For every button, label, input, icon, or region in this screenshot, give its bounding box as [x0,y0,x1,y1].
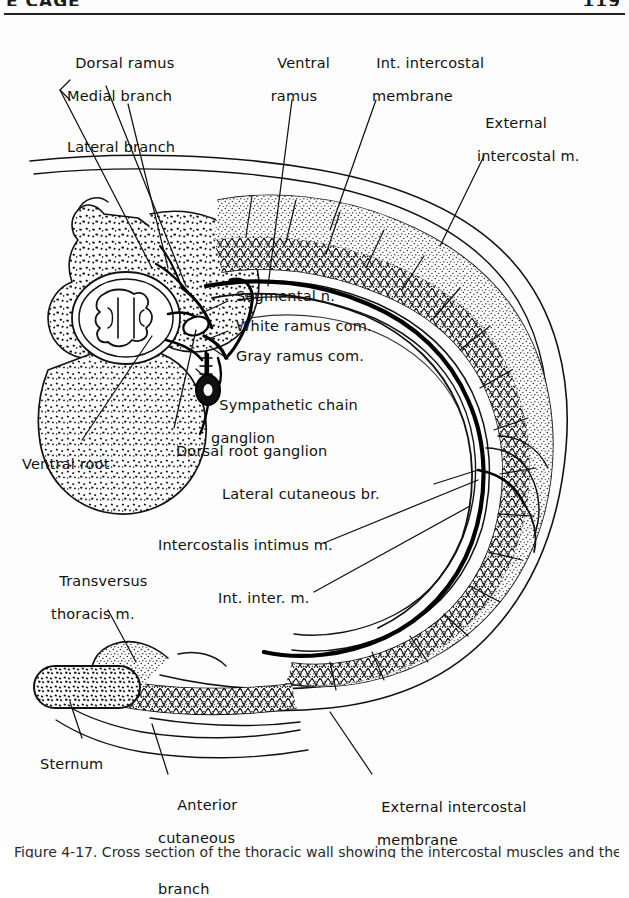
running-head-left: E CAGE [6,0,81,6]
label-sympathetic-chain-ganglion: Sympathetic chain ganglion [200,380,358,481]
label-segmental-nerve: Segmental n. [236,288,335,305]
label-white-ramus-communicans: White ramus com. [236,318,372,335]
label-transversus-thoracis-muscle: Transversus thoracis m. [40,556,148,657]
label-ventral-root: Ventral root [22,456,110,473]
label-anterior-cutaneous-branch: Anterior cutaneous branch [158,780,237,898]
label-external-intercostal-membrane: External intercostal membrane [362,782,526,883]
label-internal-intercostal-muscle: Int. inter. m. [218,590,310,607]
label-sternum: Sternum [40,756,103,773]
label-external-intercostal-muscle: External intercostal m. [466,98,580,199]
label-dorsal-ramus: Dorsal ramus Medial branch Lateral branc… [56,38,175,189]
label-gray-ramus-communicans: Gray ramus com. [236,348,364,365]
running-head-right: 119 [583,0,622,6]
label-ventral-ramus: Ventral ramus [250,38,338,139]
label-dorsal-root-ganglion: Dorsal root ganglion [176,443,327,460]
figure-caption: Figure 4-17. Cross section of the thorac… [14,844,619,858]
header-rule [4,13,625,15]
label-lateral-cutaneous-branch: Lateral cutaneous br. [222,486,380,503]
label-intercostalis-intimus-muscle: Intercostalis intimus m. [158,537,333,554]
